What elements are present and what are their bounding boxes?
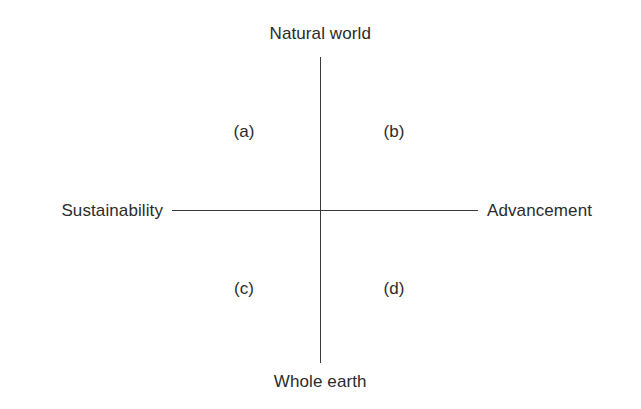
axis-label-advancement: Advancement (487, 201, 592, 221)
axis-label-whole-earth: Whole earth (0, 372, 641, 392)
quadrant-label-a: (a) (224, 122, 264, 142)
quadrant-label-c: (c) (224, 279, 264, 299)
axis-label-natural-world: Natural world (0, 24, 641, 44)
quadrant-label-d: (d) (374, 279, 414, 299)
horizontal-axis-line (172, 210, 478, 211)
quadrant-diagram: Natural world Whole earth Sustainability… (0, 0, 641, 409)
quadrant-label-b: (b) (374, 122, 414, 142)
axis-label-sustainability: Sustainability (0, 201, 163, 221)
